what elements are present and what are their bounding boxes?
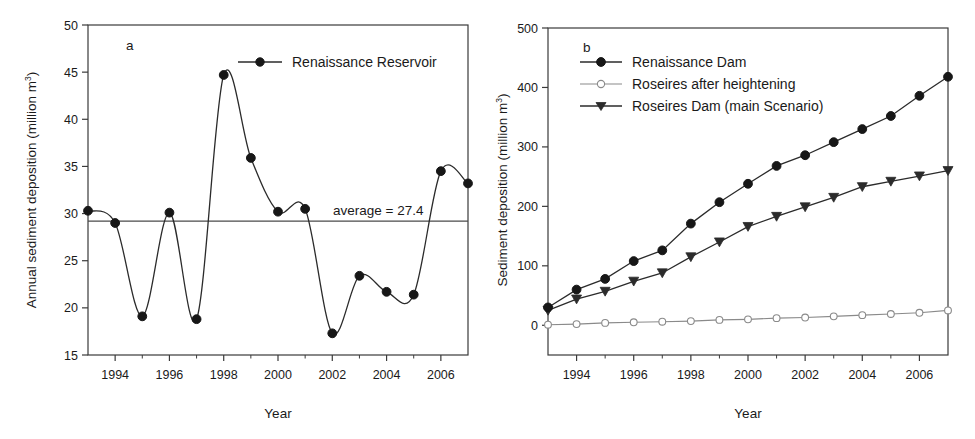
data-point — [111, 219, 120, 228]
legend-marker-roseires-after-heightening — [597, 80, 604, 87]
data-point — [219, 71, 228, 80]
data-point — [714, 238, 724, 247]
data-point — [572, 285, 581, 294]
legend-marker-renaissance-dam — [597, 58, 606, 67]
panel-a-svg: 1520253035404550 19941996199820002002200… — [0, 0, 490, 439]
data-point — [382, 287, 391, 296]
x-tick-label: 2004 — [373, 368, 401, 382]
y-tick-label: 30 — [64, 207, 78, 221]
data-point — [687, 318, 694, 325]
x-tick-label: 1996 — [156, 368, 184, 382]
data-point — [573, 321, 580, 328]
data-point — [544, 303, 553, 312]
panel-b-legend: Renaissance Dam Roseires after heighteni… — [580, 54, 823, 114]
data-point — [657, 269, 667, 278]
data-point — [772, 212, 782, 221]
data-point — [944, 72, 953, 81]
average-annotation: average = 27.4 — [333, 203, 424, 218]
data-point — [915, 91, 924, 100]
data-point — [572, 295, 582, 304]
legend-label-roseires-main-scenario: Roseires Dam (main Scenario) — [632, 98, 823, 114]
x-tick-label: 2006 — [906, 368, 934, 382]
data-point — [464, 179, 473, 188]
panel-b-ylabel-main: Sediment deposition (million m — [495, 103, 510, 287]
svg-text:Annual sediment deposition (mi: Annual sediment deposition (million m3) — [23, 72, 39, 309]
panel-a-ylabel-tail: ) — [24, 72, 39, 77]
panel-b-y-ticks: 0100200300400500 — [517, 22, 548, 333]
data-point — [716, 317, 723, 324]
data-point — [355, 271, 364, 280]
panel-a-legend: Renaissance Reservoir — [238, 54, 437, 70]
data-point — [601, 274, 610, 283]
svg-text:Sediment deposition (million m: Sediment deposition (million m3) — [494, 93, 510, 286]
data-point — [886, 112, 895, 121]
y-tick-label: 100 — [517, 259, 538, 273]
data-point — [773, 315, 780, 322]
data-point — [744, 179, 753, 188]
y-tick-label: 0 — [531, 319, 538, 333]
y-tick-label: 20 — [64, 301, 78, 315]
x-tick-label: 1994 — [101, 368, 129, 382]
x-tick-label: 2006 — [427, 368, 455, 382]
data-point — [887, 311, 894, 318]
data-point — [857, 183, 867, 192]
figure-container: 1520253035404550 19941996199820002002200… — [0, 0, 975, 439]
data-point — [800, 203, 810, 212]
data-point — [436, 167, 445, 176]
data-point — [630, 319, 637, 326]
x-tick-label: 2002 — [318, 368, 346, 382]
data-point — [246, 154, 255, 163]
data-point — [715, 198, 724, 207]
y-tick-label: 35 — [64, 160, 78, 174]
y-tick-label: 50 — [64, 19, 78, 33]
panel-b-svg: 0100200300400500 19941996199820002002200… — [485, 0, 975, 439]
y-tick-label: 300 — [517, 140, 538, 154]
data-point — [686, 219, 695, 228]
x-tick-label: 1998 — [677, 368, 705, 382]
data-point — [629, 277, 639, 286]
x-tick-label: 2002 — [791, 368, 819, 382]
y-tick-label: 500 — [517, 22, 538, 36]
legend-label-renaissance-reservoir: Renaissance Reservoir — [292, 54, 437, 70]
y-tick-label: 200 — [517, 200, 538, 214]
panel-a: 1520253035404550 19941996199820002002200… — [0, 0, 490, 439]
data-point — [409, 290, 418, 299]
data-point — [84, 206, 93, 215]
panel-b-ylabel-tail: ) — [495, 93, 510, 98]
panel-b-x-ticks: 1994199619982000200220042006 — [563, 355, 934, 382]
data-point — [545, 321, 552, 328]
panel-b-label: b — [583, 40, 591, 55]
data-point — [138, 312, 147, 321]
data-point — [274, 207, 283, 216]
data-point — [858, 125, 867, 134]
data-point — [301, 204, 310, 213]
y-tick-label: 25 — [64, 254, 78, 268]
data-point — [658, 246, 667, 255]
data-point — [745, 316, 752, 323]
x-tick-label: 1996 — [620, 368, 648, 382]
y-tick-label: 40 — [64, 113, 78, 127]
data-point — [801, 151, 810, 160]
x-tick-label: 1998 — [210, 368, 238, 382]
y-tick-label: 400 — [517, 81, 538, 95]
y-tick-label: 45 — [64, 66, 78, 80]
panel-b-y-axis-label: Sediment deposition (million m3) — [494, 93, 510, 286]
legend-marker-renaissance-reservoir — [256, 58, 264, 66]
x-tick-label: 2000 — [264, 368, 292, 382]
data-point — [829, 138, 838, 147]
legend-label-renaissance-dam: Renaissance Dam — [632, 54, 746, 70]
roseires-main-scenario-markers — [543, 167, 953, 316]
roseires-after-heightening-markers — [545, 307, 952, 328]
y-tick-label: 15 — [64, 349, 78, 363]
x-tick-label: 2004 — [848, 368, 876, 382]
x-tick-label: 2000 — [734, 368, 762, 382]
data-point — [916, 309, 923, 316]
panel-b-x-axis-label: Year — [734, 406, 762, 421]
legend-label-roseires-after-heightening: Roseires after heightening — [632, 76, 795, 92]
data-point — [659, 318, 666, 325]
data-point — [743, 222, 753, 231]
panel-a-plot-frame — [88, 25, 468, 355]
panel-a-y-ticks: 1520253035404550 — [64, 19, 88, 363]
panel-a-ylabel-main: Annual sediment deposition (million m — [24, 81, 39, 308]
data-point — [686, 253, 696, 262]
